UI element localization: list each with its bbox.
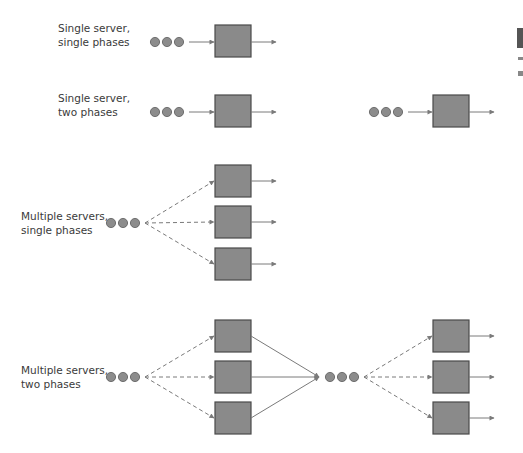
dispatch-arrow — [364, 377, 432, 418]
queue-customer-icon — [162, 107, 171, 116]
dispatch-arrow — [145, 222, 214, 223]
server-box — [215, 248, 251, 280]
server-box — [215, 165, 251, 197]
server-box — [215, 95, 251, 127]
cropped-edge-mark — [517, 28, 523, 48]
queue-customer-icon — [325, 372, 334, 381]
dispatch-arrow — [145, 377, 214, 418]
queue-customer-icon — [150, 37, 159, 46]
queue-customer-icon — [174, 107, 183, 116]
queue-customer-icon — [369, 107, 378, 116]
queue-customer-icon — [106, 372, 115, 381]
queue-structure-diagram — [0, 0, 523, 453]
server-box — [433, 320, 469, 352]
server-box — [215, 402, 251, 434]
queue-customer-icon — [118, 372, 127, 381]
server-box — [215, 361, 251, 393]
server-box — [215, 25, 251, 57]
server-box — [215, 206, 251, 238]
server-box — [433, 95, 469, 127]
queue-customer-icon — [162, 37, 171, 46]
queue-customer-icon — [381, 107, 390, 116]
merge-arrow — [251, 377, 319, 418]
queue-customer-icon — [150, 107, 159, 116]
queue-customer-icon — [130, 218, 139, 227]
server-box — [215, 320, 251, 352]
queue-customer-icon — [174, 37, 183, 46]
server-box — [433, 402, 469, 434]
queue-customer-icon — [130, 372, 139, 381]
cropped-edge-mark — [518, 71, 523, 76]
dispatch-arrow — [145, 223, 214, 264]
queue-customer-icon — [349, 372, 358, 381]
dispatch-arrow — [364, 336, 432, 377]
queue-customer-icon — [337, 372, 346, 381]
queue-customer-icon — [118, 218, 127, 227]
dispatch-arrow — [145, 336, 214, 377]
dispatch-arrow — [145, 181, 214, 223]
queue-customer-icon — [393, 107, 402, 116]
server-box — [433, 361, 469, 393]
queue-customer-icon — [106, 218, 115, 227]
merge-arrow — [251, 336, 319, 377]
cropped-edge-mark — [518, 57, 523, 60]
